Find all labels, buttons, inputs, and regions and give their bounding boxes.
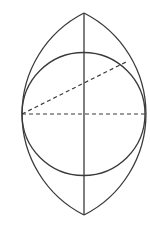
- diagonal-chord-dashed: [22, 61, 128, 114]
- lens-circle-diagram: [0, 0, 150, 226]
